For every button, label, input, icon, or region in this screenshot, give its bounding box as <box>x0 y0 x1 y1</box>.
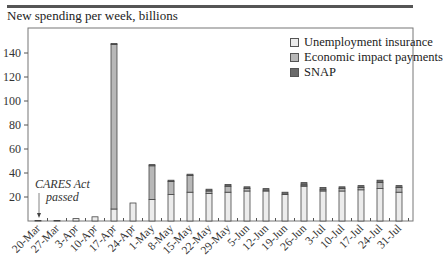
y-tick-label: 100 <box>3 94 21 108</box>
bar-segment <box>358 190 364 221</box>
bar-segment <box>168 181 174 194</box>
bar-segment <box>130 203 136 221</box>
bar-segment <box>168 180 174 181</box>
bar-segment <box>320 191 326 221</box>
bar-segment <box>149 199 155 221</box>
bar-segment <box>358 186 364 188</box>
legend-swatch-unemployment <box>290 38 299 47</box>
bar-segment <box>282 195 288 221</box>
bar-segment <box>396 187 402 192</box>
legend: Unemployment insurance Economic impact p… <box>290 35 443 80</box>
bar-segment <box>225 192 231 221</box>
legend-item-unemployment: Unemployment insurance <box>290 35 443 50</box>
bar-segment <box>377 183 383 189</box>
bar-segment <box>263 191 269 221</box>
y-tick-label: 140 <box>3 46 21 60</box>
bar-segment <box>168 195 174 221</box>
legend-item-eip: Economic impact payments <box>290 50 443 65</box>
y-tick-label: 60 <box>9 142 21 156</box>
y-tick-label: 20 <box>9 190 21 204</box>
legend-label: SNAP <box>304 65 336 80</box>
bar-segment <box>244 187 250 189</box>
bar-segment <box>206 193 212 221</box>
arrow-head-icon <box>37 213 41 218</box>
annotation-passed: passed <box>45 190 80 204</box>
bar-segment <box>92 217 98 221</box>
bar-segment <box>225 186 231 192</box>
bar-segment <box>339 187 345 189</box>
bar-segment <box>187 174 193 175</box>
y-tick-label: 120 <box>3 70 21 84</box>
bar-segment <box>396 192 402 221</box>
legend-swatch-eip <box>290 53 299 62</box>
y-tick-label: 40 <box>9 166 21 180</box>
bar-segment <box>320 187 326 189</box>
annotation-cares-act: CARES Act <box>35 177 90 191</box>
legend-item-snap: SNAP <box>290 65 443 80</box>
bar-segment <box>111 209 117 221</box>
bar-segment <box>149 165 155 166</box>
bar-segment <box>339 191 345 221</box>
bar-segment <box>263 189 269 191</box>
bar-segment <box>396 186 402 188</box>
legend-swatch-snap <box>290 68 299 77</box>
bar-segment <box>111 43 117 44</box>
bar-segment <box>149 166 155 200</box>
legend-label: Unemployment insurance <box>304 35 433 50</box>
bar-segment <box>244 191 250 221</box>
bar-segment <box>73 219 79 221</box>
bar-segment <box>54 220 60 221</box>
bar-segment <box>301 183 307 185</box>
bar-segment <box>225 184 231 186</box>
bar-segment <box>377 180 383 182</box>
bar-segment <box>35 220 41 221</box>
bar-segment <box>282 192 288 194</box>
bar-segment <box>187 192 193 221</box>
bar-segment <box>377 189 383 221</box>
bar-segment <box>301 186 307 221</box>
y-tick-label: 80 <box>9 118 21 132</box>
bar-segment <box>111 45 117 209</box>
bar-segment <box>187 175 193 192</box>
legend-label: Economic impact payments <box>304 50 443 65</box>
bar-segment <box>206 189 212 191</box>
